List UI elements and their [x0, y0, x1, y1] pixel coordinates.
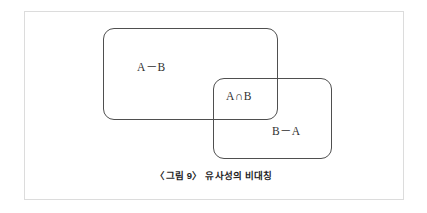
region-label-b-minus-a: B－A: [272, 126, 301, 138]
region-label-a-minus-b: A－B: [137, 62, 166, 74]
figure-caption: 〈그림 9〉 유사성의 비대칭: [24, 168, 404, 182]
figure-page: A－B A∩B B－A 〈그림 9〉 유사성의 비대칭: [0, 0, 427, 213]
set-a-rectangle: [103, 28, 278, 120]
region-label-a-intersect-b: A∩B: [226, 91, 252, 103]
